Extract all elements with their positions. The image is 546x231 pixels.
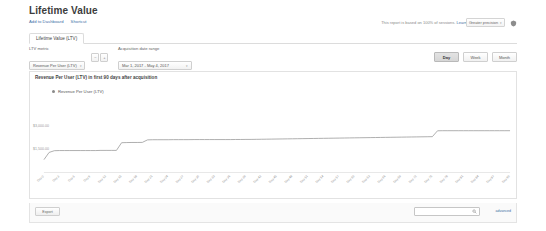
- granularity-month-button[interactable]: Month: [492, 52, 517, 62]
- x-axis-tick-label: Day 51: [299, 174, 309, 184]
- x-axis-tick-label: Day 45: [268, 174, 278, 184]
- sampling-note-text: This report is based on 100% of sessions…: [381, 20, 455, 25]
- metric-remove-button[interactable]: −: [91, 53, 99, 62]
- acquisition-date-range-value: Mar 1, 2017 - May 4, 2017: [122, 63, 169, 68]
- x-axis-tick-label: Day 12: [97, 174, 107, 184]
- x-axis-tick-label: Day 21: [144, 174, 154, 184]
- chevron-down-icon: ▾: [183, 64, 188, 68]
- chart-legend: Revenue Per User (LTV): [52, 89, 104, 94]
- tab-strip: Lifetime Value (LTV): [29, 33, 517, 44]
- ltv-metric-group: LTV metric Revenue Per User (LTV) ▾ − +: [29, 46, 108, 71]
- x-axis-tick-label: Day 0: [36, 174, 45, 183]
- advanced-link[interactable]: advanced: [495, 209, 511, 213]
- x-axis-tick-label: Day 63: [361, 174, 371, 184]
- x-axis-tick-label: Day 72: [408, 174, 418, 184]
- search-input[interactable]: [417, 209, 472, 215]
- x-axis-tick-label: Day 54: [315, 174, 325, 184]
- lifetime-value-report: Lifetime Value Add to Dashboard Shortcut…: [0, 0, 546, 231]
- ltv-metric-label: LTV metric: [29, 46, 108, 51]
- search-box[interactable]: [414, 207, 480, 216]
- report-footer: Export advanced: [29, 203, 517, 223]
- acquisition-date-range-dropdown[interactable]: Mar 1, 2017 - May 4, 2017 ▾: [118, 61, 192, 70]
- tab-lifetime-value-ltv[interactable]: Lifetime Value (LTV): [29, 33, 84, 44]
- metric-add-button[interactable]: +: [100, 53, 108, 62]
- x-axis-tick-label: Day 69: [392, 174, 402, 184]
- y-axis-tick-label: $3,000.00: [33, 124, 49, 128]
- x-axis-tick-label: Day 48: [284, 174, 294, 184]
- chevron-down-icon: ▾: [500, 21, 502, 25]
- ltv-metric-value: Revenue Per User (LTV): [33, 63, 77, 68]
- x-axis-tick-label: Day 39: [237, 174, 247, 184]
- ltv-metric-stepper: − +: [91, 53, 108, 62]
- shortcut-link[interactable]: Shortcut: [71, 19, 87, 24]
- shield-icon[interactable]: [510, 20, 517, 27]
- chart-line-series: [44, 131, 510, 160]
- ltv-line-chart[interactable]: $3,000.00$1,500.00Day 0Day 3Day 6Day 9Da…: [30, 98, 516, 198]
- acquisition-date-range-label: Acquisition date range: [118, 46, 192, 51]
- action-bar: Add to Dashboard Shortcut This report is…: [29, 19, 517, 31]
- precision-value: Greater precision: [469, 21, 498, 25]
- report-controls: LTV metric Revenue Per User (LTV) ▾ − + …: [29, 46, 517, 68]
- legend-marker-icon: [52, 90, 55, 93]
- legend-label[interactable]: Revenue Per User (LTV): [58, 89, 104, 94]
- precision-dropdown[interactable]: Greater precision ▾: [466, 18, 505, 27]
- action-links: Add to Dashboard Shortcut: [29, 19, 87, 24]
- x-axis-tick-label: Day 78: [439, 174, 449, 184]
- granularity-day-button[interactable]: Day: [434, 52, 459, 62]
- chart-panel: Revenue Per User (LTV) in first 90 days …: [29, 71, 517, 199]
- x-axis-tick-label: Day 27: [175, 174, 185, 184]
- page-title: Lifetime Value: [29, 5, 98, 16]
- export-button[interactable]: Export: [35, 207, 60, 216]
- x-axis-tick-label: Day 24: [159, 174, 169, 184]
- x-axis-tick-label: Day 18: [128, 174, 138, 184]
- x-axis-tick-label: Day 3: [52, 174, 61, 183]
- x-axis-tick-label: Day 75: [423, 174, 433, 184]
- x-axis-tick-label: Day 42: [252, 174, 262, 184]
- x-axis-tick-label: Day 57: [330, 174, 340, 184]
- x-axis-tick-label: Day 9: [83, 174, 92, 183]
- x-axis-tick-label: Day 81: [454, 174, 464, 184]
- ltv-metric-dropdown[interactable]: Revenue Per User (LTV) ▾: [29, 61, 85, 70]
- add-to-dashboard-link[interactable]: Add to Dashboard: [29, 19, 64, 24]
- chart-heading: Revenue Per User (LTV) in first 90 days …: [35, 75, 157, 80]
- x-axis-tick-label: Day 60: [346, 174, 356, 184]
- x-axis-tick-label: Day 66: [377, 174, 387, 184]
- x-axis-tick-label: Day 15: [113, 174, 123, 184]
- granularity-week-button[interactable]: Week: [463, 52, 488, 62]
- acquisition-date-range-group: Acquisition date range Mar 1, 2017 - May…: [118, 46, 192, 71]
- x-axis-tick-label: Day 87: [485, 174, 495, 184]
- x-axis-tick-label: Day 90: [501, 174, 511, 184]
- x-axis-tick-label: Day 6: [67, 174, 76, 183]
- x-axis-tick-label: Day 36: [221, 174, 231, 184]
- sampling-note: This report is based on 100% of sessions…: [381, 20, 477, 25]
- x-axis-tick-label: Day 33: [206, 174, 216, 184]
- chevron-down-icon: ▾: [77, 64, 82, 68]
- y-axis-tick-label: $1,500.00: [33, 147, 49, 151]
- granularity-toggle-group: Day Week Month: [430, 52, 517, 62]
- search-icon[interactable]: [472, 209, 477, 214]
- x-axis-tick-label: Day 84: [470, 174, 480, 184]
- x-axis-tick-label: Day 30: [190, 174, 200, 184]
